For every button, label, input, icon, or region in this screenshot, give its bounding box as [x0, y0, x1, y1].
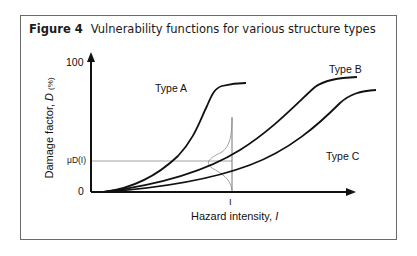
x-axis-label-symbol: I	[275, 210, 278, 222]
y-axis-arrow-icon	[87, 52, 95, 62]
y-axis-label-unit: (%)	[46, 77, 55, 89]
label-type-c: Type C	[326, 150, 359, 162]
damage-distribution-curve	[208, 118, 232, 190]
x-axis-arrow-icon	[346, 188, 356, 196]
curve-type-c	[104, 90, 376, 192]
y-axis-label: Damage factor, D (%)	[43, 77, 55, 178]
label-type-b: Type B	[329, 63, 362, 75]
y-tick-100: 100	[66, 56, 84, 68]
y-mean-label: μD(I)	[67, 155, 86, 165]
y-tick-0: 0	[78, 185, 84, 197]
y-axis-label-symbol: D	[43, 93, 55, 101]
curve-type-b	[104, 77, 357, 192]
x-axis-label-text: Hazard intensity,	[191, 210, 272, 222]
label-type-a: Type A	[155, 82, 187, 94]
x-tick-intensity: I	[229, 196, 232, 207]
y-axis-label-text: Damage factor,	[43, 104, 55, 179]
x-axis-label: Hazard intensity, I	[191, 210, 278, 222]
curve-type-a	[104, 83, 246, 192]
